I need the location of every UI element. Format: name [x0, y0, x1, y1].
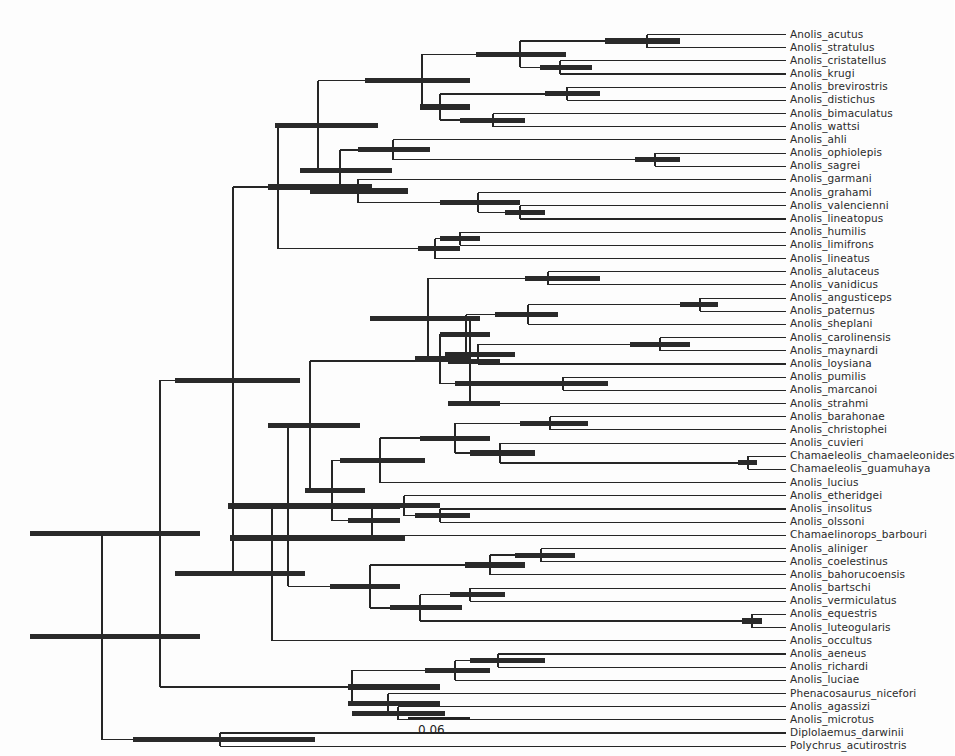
tip-label: Anolis_limifrons — [790, 239, 874, 250]
tip-label: Anolis_aeneus — [790, 648, 866, 659]
node-hpd-bar — [525, 276, 600, 281]
tip-label: Chamaelinorops_barbouri — [790, 529, 927, 540]
tip-label: Anolis_lineatus — [790, 253, 870, 264]
node-hpd-bar — [635, 157, 680, 162]
node-hpd-bar — [370, 316, 480, 321]
node-hpd-bar — [440, 236, 480, 241]
node-hpd-bar — [268, 184, 372, 189]
node-hpd-bar — [545, 91, 600, 96]
node-hpd-bar — [340, 458, 425, 463]
tip-label: Anolis_pumilis — [790, 371, 866, 382]
tip-label: Anolis_barahonae — [790, 411, 885, 422]
tip-label: Anolis_agassizi — [790, 701, 870, 712]
tip-label: Anolis_microtus — [790, 714, 874, 725]
node-hpd-bar — [455, 381, 525, 386]
tip-label: Anolis_sagrei — [790, 160, 860, 171]
tree-branches — [30, 35, 786, 747]
node-hpd-bar — [630, 342, 690, 347]
tip-label: Anolis_ophiolepis — [790, 147, 882, 158]
tip-label: Anolis_bimaculatus — [790, 108, 893, 119]
node-hpd-bar — [275, 123, 378, 128]
tip-label: Anolis_sheplani — [790, 318, 873, 329]
node-hpd-bar — [352, 711, 445, 716]
tip-label: Anolis_vanidicus — [790, 279, 878, 290]
tip-label: Anolis_valencienni — [790, 200, 889, 211]
tip-label: Anolis_brevirostris — [790, 81, 888, 92]
tip-label: Anolis_lucius — [790, 477, 859, 488]
tip-label: Anolis_cristatellus — [790, 55, 886, 66]
tip-label: Anolis_coelestinus — [790, 556, 888, 567]
node-hpd-bar — [476, 52, 566, 57]
node-hpd-bar — [348, 701, 440, 706]
node-hpd-bar — [390, 605, 462, 610]
node-hpd-bar — [365, 78, 470, 83]
node-hpd-bar — [175, 571, 305, 576]
node-hpd-bar — [330, 584, 400, 589]
node-hpd-bar — [465, 562, 525, 567]
tip-label: Anolis_strahmi — [790, 398, 868, 409]
tip-label: Anolis_cuvieri — [790, 437, 863, 448]
tip-label: Anolis_equestris — [790, 608, 877, 619]
node-hpd-bar — [495, 312, 558, 317]
node-hpd-bar — [605, 38, 680, 43]
scalebar-label: 0.06 — [418, 723, 445, 737]
tip-label: Anolis_distichus — [790, 94, 875, 105]
tip-label: Anolis_occultus — [790, 635, 872, 646]
tip-label: Polychrus_acutirostris — [790, 740, 907, 751]
tip-label: Anolis_krugi — [790, 68, 855, 79]
tip-label: Anolis_maynardi — [790, 345, 878, 356]
node-hpd-bar — [448, 359, 500, 364]
tip-label: Anolis_paternus — [790, 305, 875, 316]
node-hpd-bar — [420, 436, 490, 441]
node-hpd-bar — [460, 118, 525, 123]
tip-label: Anolis_lineatopus — [790, 213, 883, 224]
node-hpd-bar — [515, 553, 575, 558]
tip-label: Anolis_vermiculatus — [790, 595, 897, 606]
tip-label: Anolis_aliniger — [790, 543, 868, 554]
node-hpd-bar — [415, 513, 470, 518]
node-hpd-bar — [175, 378, 300, 383]
node-hpd-bar — [133, 737, 315, 742]
tip-label: Chamaeleolis_guamuhaya — [790, 463, 930, 474]
node-hpd-bar — [420, 104, 470, 109]
tip-label: Anolis_bartschi — [790, 582, 871, 593]
node-hpd-bar — [418, 246, 460, 251]
tip-label: Anolis_acutus — [790, 29, 863, 40]
node-hpd-bar — [448, 401, 500, 406]
node-hpd-bar — [738, 460, 757, 465]
node-hpd-bar — [305, 488, 365, 493]
tip-label: Anolis_insolitus — [790, 503, 872, 514]
tip-label: Anolis_marcanoi — [790, 384, 877, 395]
node-hpd-bar — [505, 210, 545, 215]
tip-label: Phenacosaurus_nicefori — [790, 688, 916, 699]
node-hpd-bar — [540, 65, 592, 70]
tip-label: Anolis_christophei — [790, 424, 887, 435]
tip-label: Anolis_olssoni — [790, 516, 865, 527]
tip-label: Anolis_alutaceus — [790, 266, 879, 277]
tip-label: Anolis_stratulus — [790, 42, 875, 53]
node-hpd-bar — [358, 147, 430, 152]
tip-label: Diplolaemus_darwinii — [790, 727, 904, 738]
node-hpd-bar — [300, 168, 392, 173]
node-hpd-bar — [268, 423, 360, 428]
node-hpd-bar — [425, 668, 490, 673]
node-hpd-bar — [680, 302, 718, 307]
tip-label: Anolis_grahami — [790, 187, 872, 198]
node-hpd-bar — [742, 618, 762, 623]
tip-label: Anolis_angusticeps — [790, 292, 892, 303]
tip-label: Anolis_humilis — [790, 226, 866, 237]
node-hpd-bar — [30, 634, 200, 639]
tip-label: Anolis_ahli — [790, 134, 847, 145]
node-hpd-bar — [440, 332, 490, 337]
node-hpd-bar — [445, 352, 515, 357]
node-hpd-bar — [450, 592, 505, 597]
tip-label: Anolis_richardi — [790, 661, 868, 672]
tip-label: Anolis_wattsi — [790, 121, 860, 132]
node-hpd-bar — [470, 658, 545, 663]
node-hpd-bar — [440, 200, 520, 205]
node-hpd-bar — [30, 531, 200, 536]
tip-label: Anolis_etheridgei — [790, 490, 882, 501]
tip-label: Anolis_luciae — [790, 674, 859, 685]
tip-label: Chamaeleolis_chamaeleonides — [790, 450, 955, 461]
